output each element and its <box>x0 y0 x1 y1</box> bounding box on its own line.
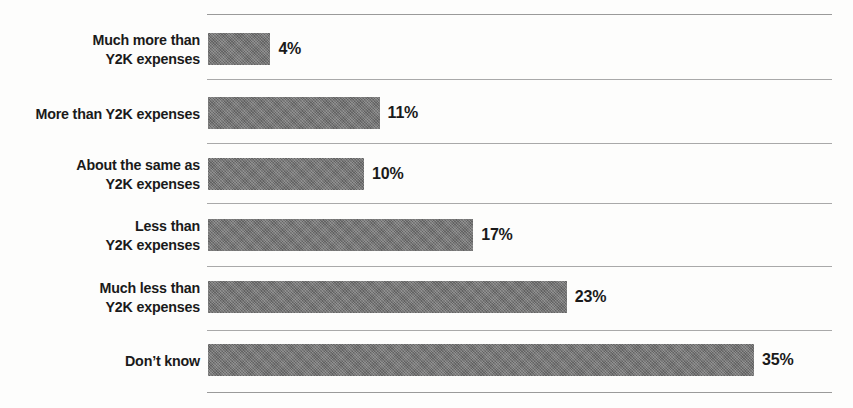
bar-track: 11% <box>208 97 832 129</box>
bar-row[interactable]: About the same as Y2K expenses10% <box>0 158 853 190</box>
bar-category-label: Much less than Y2K expenses <box>0 278 200 316</box>
bar[interactable] <box>208 97 380 129</box>
bar-value-label: 10% <box>364 165 403 183</box>
gridline <box>207 79 832 80</box>
bar-track: 4% <box>208 33 832 65</box>
gridline <box>207 392 832 393</box>
bar-row[interactable]: Much more than Y2K expenses4% <box>0 33 853 65</box>
bar-value-label: 4% <box>270 40 301 58</box>
bar-category-label: Less than Y2K expenses <box>0 216 200 254</box>
gridline <box>207 143 832 144</box>
bar[interactable] <box>208 344 754 376</box>
bar-category-label: Don’t know <box>0 351 200 370</box>
bar-category-label: More than Y2K expenses <box>0 104 200 123</box>
bar-row[interactable]: More than Y2K expenses11% <box>0 97 853 129</box>
bar-track: 35% <box>208 344 832 376</box>
bar[interactable] <box>208 281 567 313</box>
gridline <box>207 266 832 267</box>
bar-value-label: 17% <box>473 226 512 244</box>
bar-category-label: About the same as Y2K expenses <box>0 155 200 193</box>
bar-track: 23% <box>208 281 832 313</box>
bar[interactable] <box>208 219 473 251</box>
gridline <box>207 203 832 204</box>
gridline <box>207 14 832 15</box>
bar-category-label: Much more than Y2K expenses <box>0 30 200 68</box>
bar-chart: Much more than Y2K expenses4%More than Y… <box>0 0 853 408</box>
bar-row[interactable]: Don’t know35% <box>0 344 853 376</box>
bar-row[interactable]: Much less than Y2K expenses23% <box>0 281 853 313</box>
bar[interactable] <box>208 158 364 190</box>
bar-value-label: 11% <box>380 104 419 122</box>
gridline <box>207 330 832 331</box>
bar-value-label: 35% <box>754 351 793 369</box>
bar-row[interactable]: Less than Y2K expenses17% <box>0 219 853 251</box>
bar-track: 17% <box>208 219 832 251</box>
bar-track: 10% <box>208 158 832 190</box>
bar-value-label: 23% <box>567 288 606 306</box>
bar[interactable] <box>208 33 270 65</box>
